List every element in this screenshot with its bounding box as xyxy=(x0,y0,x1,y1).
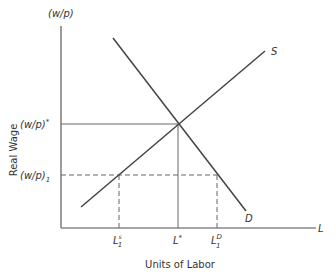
supply-label: S xyxy=(271,46,278,57)
x-axis-end-label: L xyxy=(318,223,324,234)
y-axis-title: Real Wage xyxy=(8,124,19,177)
x-tick-l1d: LD1 xyxy=(211,233,223,250)
labor-market-chart: (w/p) (w/p)* (w/p)1 Real Wage S D L Ls1 … xyxy=(0,0,336,275)
demand-label: D xyxy=(245,213,253,224)
supply-curve xyxy=(81,51,265,207)
x-tick-l1s: Ls1 xyxy=(113,233,122,249)
y-tick-wage-1: (w/p)1 xyxy=(20,170,50,184)
y-axis-top-label: (w/p) xyxy=(48,8,74,19)
x-tick-lstar: L* xyxy=(173,234,183,246)
x-axis-title: Units of Labor xyxy=(145,259,216,270)
y-tick-equilibrium-wage: (w/p)* xyxy=(20,118,50,130)
